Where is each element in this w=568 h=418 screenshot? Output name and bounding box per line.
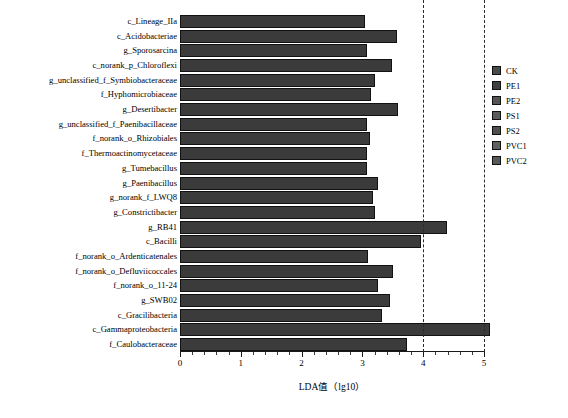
category-label: c_Gammaproteobacteria — [4, 323, 180, 336]
x-tick-minor — [375, 352, 376, 355]
bar-row — [180, 74, 484, 87]
bar-row — [180, 191, 484, 204]
bar-row — [180, 103, 484, 116]
legend-label: CK — [506, 66, 518, 76]
threshold-line — [484, 0, 485, 352]
bar — [180, 103, 398, 116]
category-label: f_Thermoactinomycetaceae — [4, 147, 180, 160]
bar-row — [180, 323, 484, 336]
plot-area — [180, 14, 484, 352]
category-label: f_norank_o_Rhizobiales — [4, 132, 180, 145]
category-label: g_RB41 — [4, 221, 180, 234]
lda-bar-chart: c_Lineage_IIac_Acidobacteriaeg_Sporosarc… — [0, 0, 568, 418]
x-tick-label: 2 — [299, 358, 304, 368]
x-tick-minor — [253, 352, 254, 355]
bar — [180, 338, 407, 351]
bar-row — [180, 59, 484, 72]
category-label: c_Bacilli — [4, 235, 180, 248]
x-tick-label: 0 — [178, 358, 183, 368]
category-label: g_Sporosarcina — [4, 44, 180, 57]
legend-label: PS1 — [506, 111, 520, 121]
bar-row — [180, 206, 484, 219]
bar — [180, 294, 390, 307]
legend-item: PVC1 — [492, 139, 562, 153]
x-tick-minor — [435, 352, 436, 355]
x-axis-title: LDA值（lg10） — [180, 379, 484, 393]
category-label: g_unclassified_f_Paenibacillaceae — [4, 118, 180, 131]
bar-row — [180, 162, 484, 175]
category-label: c_Lineage_IIa — [4, 15, 180, 28]
category-axis-labels: c_Lineage_IIac_Acidobacteriaeg_Sporosarc… — [0, 14, 180, 352]
x-tick-minor — [229, 352, 230, 355]
category-label: c_norank_p_Chloroflexi — [4, 59, 180, 72]
bar-row — [180, 132, 484, 145]
bar-row — [180, 221, 484, 234]
category-label: c_Gracilibacteria — [4, 309, 180, 322]
x-tick-minor — [472, 352, 473, 355]
legend-swatch-icon — [492, 66, 501, 75]
bar-row — [180, 265, 484, 278]
legend-swatch-icon — [492, 81, 501, 90]
legend-swatch-icon — [492, 156, 501, 165]
category-label: g_Desertibacter — [4, 103, 180, 116]
x-tick-minor — [277, 352, 278, 355]
x-tick-minor — [265, 352, 266, 355]
x-tick-label: 5 — [482, 358, 487, 368]
x-tick-minor — [460, 352, 461, 355]
category-label: g_norank_f_LWQ8 — [4, 191, 180, 204]
category-label: g_unclassified_f_Symbiobacteraceae — [4, 74, 180, 87]
bar-row — [180, 309, 484, 322]
bar — [180, 279, 378, 292]
bar-row — [180, 88, 484, 101]
category-label: f_norank_o_11-24 — [4, 279, 180, 292]
category-label: c_Acidobacteriae — [4, 30, 180, 43]
legend-item: PVC2 — [492, 154, 562, 168]
x-tick-major — [180, 352, 181, 357]
legend-label: PVC2 — [506, 156, 527, 166]
bar-row — [180, 294, 484, 307]
bar-row — [180, 15, 484, 28]
legend-item: PE1 — [492, 79, 562, 93]
x-tick-minor — [289, 352, 290, 355]
x-tick-minor — [192, 352, 193, 355]
bar — [180, 235, 421, 248]
x-tick-minor — [448, 352, 449, 355]
category-label: f_norank_o_Ardenticatenales — [4, 250, 180, 263]
bar — [180, 265, 393, 278]
category-label: f_norank_o_Defluviicoccales — [4, 265, 180, 278]
bar — [180, 147, 367, 160]
bar — [180, 59, 392, 72]
x-tick-minor — [411, 352, 412, 355]
bar — [180, 221, 447, 234]
x-tick-major — [241, 352, 242, 357]
bar — [180, 30, 397, 43]
legend-item: PE2 — [492, 94, 562, 108]
legend-item: PS1 — [492, 109, 562, 123]
bar-row — [180, 250, 484, 263]
x-tick-minor — [216, 352, 217, 355]
bar — [180, 162, 367, 175]
legend-item: PS2 — [492, 124, 562, 138]
bar — [180, 250, 368, 263]
x-tick-minor — [338, 352, 339, 355]
x-tick-major — [302, 352, 303, 357]
category-label: f_Hyphomicrobiaceae — [4, 88, 180, 101]
x-tick-label: 3 — [360, 358, 365, 368]
bar — [180, 118, 367, 131]
legend-item: CK — [492, 64, 562, 78]
legend-label: PS2 — [506, 126, 520, 136]
x-tick-minor — [314, 352, 315, 355]
bar-row — [180, 338, 484, 351]
bar-row — [180, 30, 484, 43]
bar — [180, 88, 371, 101]
bar-row — [180, 279, 484, 292]
category-label: g_Constrictibacter — [4, 206, 180, 219]
category-label: g_Paenibacillus — [4, 177, 180, 190]
legend: CKPE1PE2PS1PS2PVC1PVC2 — [492, 64, 562, 169]
x-tick-label: 1 — [239, 358, 244, 368]
bar-row — [180, 44, 484, 57]
bar — [180, 74, 375, 87]
x-tick-major — [484, 352, 485, 357]
x-tick-minor — [350, 352, 351, 355]
x-axis: 012345 — [180, 352, 484, 382]
